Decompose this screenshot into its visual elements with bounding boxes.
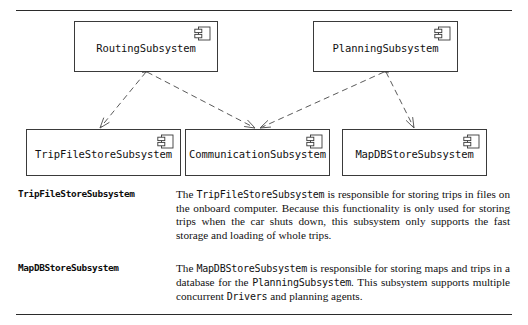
dependency-line xyxy=(100,72,146,128)
component-planning[interactable]: PlanningSubsystem xyxy=(313,21,458,72)
uml-component-icon xyxy=(463,134,480,149)
code-term: PlanningSubsystem xyxy=(252,277,351,288)
component-routing[interactable]: RoutingSubsystem xyxy=(74,21,218,72)
uml-component-icon xyxy=(157,134,174,149)
dependency-arrowhead xyxy=(260,120,271,128)
section-rule-bottom xyxy=(16,314,512,315)
uml-component-diagram: RoutingSubsystemPlanningSubsystemTripFil… xyxy=(0,0,528,182)
prose-text: and planning agents. xyxy=(267,290,362,302)
component-mapdbstore[interactable]: MapDBStoreSubsystem xyxy=(342,129,487,176)
dependency-arrowhead xyxy=(406,117,414,128)
prose-text: The xyxy=(176,188,196,200)
dependency-arrowhead xyxy=(100,118,109,128)
code-term: TripFileStoreSubsystem xyxy=(196,189,324,200)
figure-page: RoutingSubsystemPlanningSubsystemTripFil… xyxy=(0,0,528,325)
component-label: MapDBStoreSubsystem xyxy=(355,146,473,160)
component-tripfilestore[interactable]: TripFileStoreSubsystem xyxy=(26,129,181,176)
component-communication[interactable]: CommunicationSubsystem xyxy=(185,129,330,176)
component-label: PlanningSubsystem xyxy=(333,40,439,54)
dependency-line xyxy=(147,72,255,128)
dependency-arrowhead xyxy=(244,120,255,128)
prose-text: The xyxy=(176,262,196,274)
description-term: TripFileStoreSubsystem xyxy=(0,188,176,200)
code-term: Drivers xyxy=(227,291,268,302)
dependency-line xyxy=(386,72,414,128)
description-term: MapDBStoreSubsystem xyxy=(0,262,176,274)
description-body: The MapDBStoreSubsystem is responsible f… xyxy=(176,262,528,303)
dep-routing-communication xyxy=(142,68,255,128)
uml-component-icon xyxy=(194,26,211,41)
dep-planning-mapdbstore xyxy=(382,67,414,128)
dep-routing-tripfilestore xyxy=(100,67,151,128)
component-label: RoutingSubsystem xyxy=(96,40,196,54)
description-body: The TripFileStoreSubsystem is responsibl… xyxy=(176,188,528,242)
dependency-line xyxy=(260,72,384,128)
uml-component-icon xyxy=(434,26,451,41)
code-term: MapDBStoreSubsystem xyxy=(196,263,307,274)
uml-component-icon xyxy=(306,134,323,149)
description-row-mapdbstore: MapDBStoreSubsystem The MapDBStoreSubsys… xyxy=(0,242,528,303)
dep-planning-communication xyxy=(260,68,389,128)
description-row-tripfilestore: TripFileStoreSubsystem The TripFileStore… xyxy=(0,182,528,242)
component-label: TripFileStoreSubsystem xyxy=(35,146,172,160)
description-table: TripFileStoreSubsystem The TripFileStore… xyxy=(0,182,528,303)
